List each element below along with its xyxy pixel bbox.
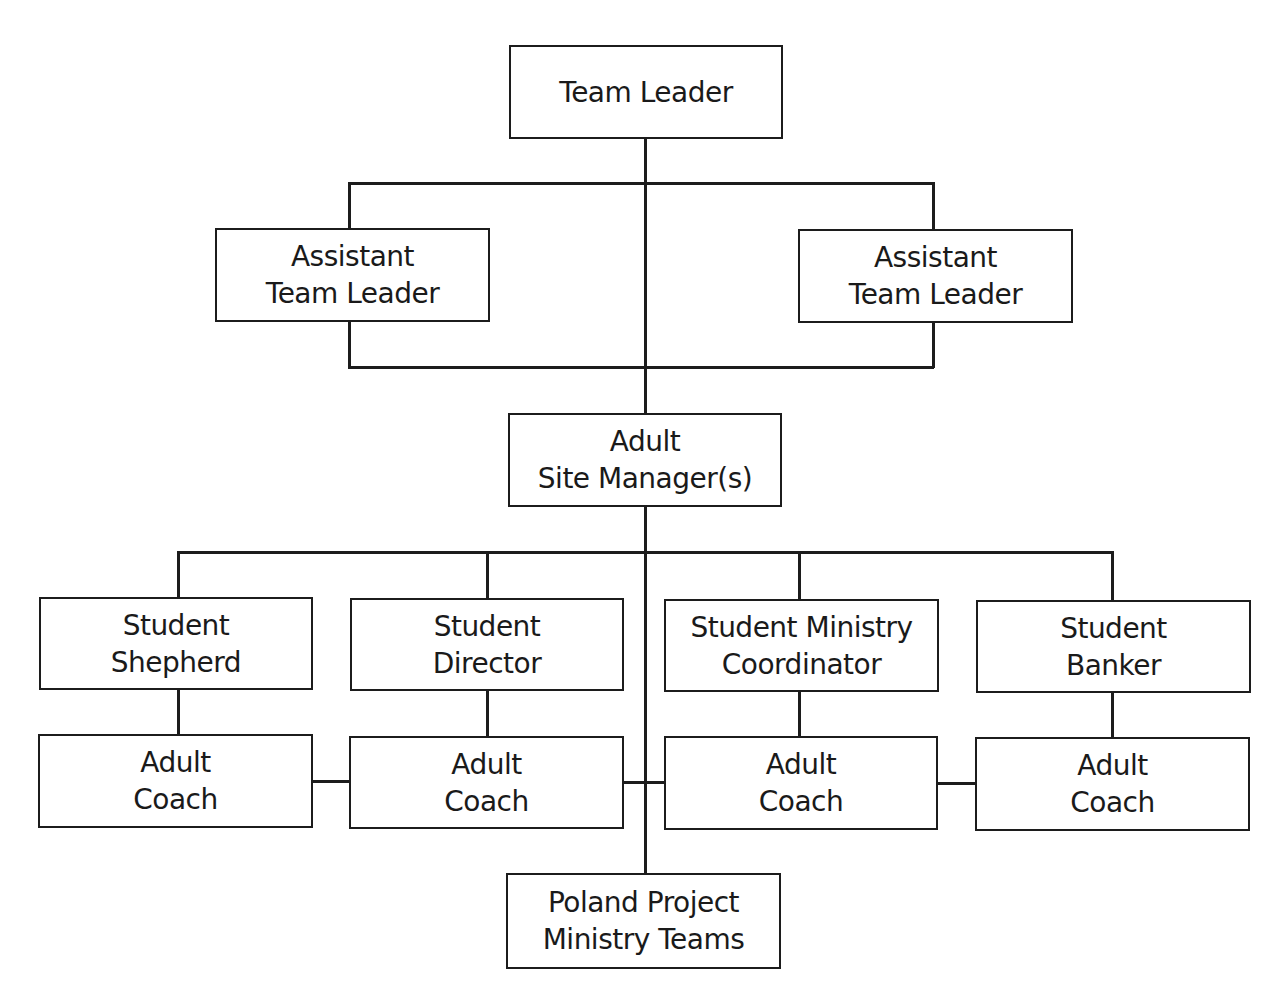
node-label-line-1: Assistant — [291, 238, 414, 275]
connector-coach-1-2 — [309, 780, 351, 783]
node-adult-coach-3: Adult Coach — [664, 736, 938, 830]
node-student-director: Student Director — [350, 598, 624, 691]
connector-assistant-left-top — [348, 182, 351, 229]
connector-assistants-bottom — [348, 366, 934, 369]
connector-coordinator-coach — [798, 690, 801, 738]
node-label-line-1: Poland Project — [548, 884, 739, 921]
node-label-line-2: Coordinator — [722, 646, 881, 683]
node-student-banker: Student Banker — [976, 600, 1251, 693]
node-label-line-2: Shepherd — [111, 644, 241, 681]
node-label-line-2: Site Manager(s) — [538, 460, 752, 497]
connector-director-top — [486, 551, 489, 600]
node-label-line-2: Team Leader — [266, 275, 439, 312]
node-label: Team Leader — [559, 74, 732, 111]
node-poland-project-ministry-teams: Poland Project Ministry Teams — [506, 873, 781, 969]
node-label-line-1: Adult — [766, 746, 836, 783]
connector-shepherd-coach — [177, 688, 180, 736]
node-label-line-1: Adult — [1077, 747, 1147, 784]
node-label-line-2: Director — [433, 645, 541, 682]
connector-banker-top — [1111, 551, 1114, 601]
connector-assistants-top — [348, 182, 934, 185]
node-label-line-2: Banker — [1066, 647, 1161, 684]
node-label-line-1: Student — [123, 607, 230, 644]
node-team-leader: Team Leader — [509, 45, 783, 139]
node-label-line-1: Student — [434, 608, 541, 645]
node-assistant-team-leader-left: Assistant Team Leader — [215, 228, 490, 322]
node-label-line-2: Coach — [133, 781, 217, 818]
connector-assistant-right-bottom — [932, 321, 935, 368]
connector-coach-2-3 — [621, 781, 665, 784]
node-adult-site-manager: Adult Site Manager(s) — [508, 413, 782, 507]
connector-assistant-left-bottom — [348, 320, 351, 368]
connector-banker-coach — [1111, 691, 1114, 739]
node-label-line-2: Coach — [759, 783, 843, 820]
node-adult-coach-1: Adult Coach — [38, 734, 313, 828]
node-assistant-team-leader-right: Assistant Team Leader — [798, 229, 1073, 323]
node-label-line-1: Assistant — [874, 239, 997, 276]
node-label-line-2: Ministry Teams — [543, 921, 745, 958]
node-label-line-1: Student — [1060, 610, 1167, 647]
node-adult-coach-4: Adult Coach — [975, 737, 1250, 831]
connector-director-coach — [486, 690, 489, 738]
connector-shepherd-top — [177, 551, 180, 599]
connector-students-bus — [177, 551, 1114, 554]
connector-assistant-right-top — [932, 182, 935, 230]
node-adult-coach-2: Adult Coach — [349, 736, 624, 829]
node-label-line-2: Coach — [1070, 784, 1154, 821]
connector-coach-3-4 — [935, 782, 977, 785]
node-student-shepherd: Student Shepherd — [39, 597, 313, 690]
node-label-line-1: Adult — [451, 746, 521, 783]
node-label-line-2: Team Leader — [849, 276, 1022, 313]
connector-coordinator-top — [798, 551, 801, 601]
node-label-line-1: Adult — [610, 423, 680, 460]
node-student-ministry-coordinator: Student Ministry Coordinator — [664, 599, 939, 692]
org-chart: Team Leader Assistant Team Leader Assist… — [0, 0, 1286, 997]
node-label-line-1: Student Ministry — [690, 609, 912, 646]
node-label-line-2: Coach — [444, 783, 528, 820]
node-label-line-1: Adult — [140, 744, 210, 781]
